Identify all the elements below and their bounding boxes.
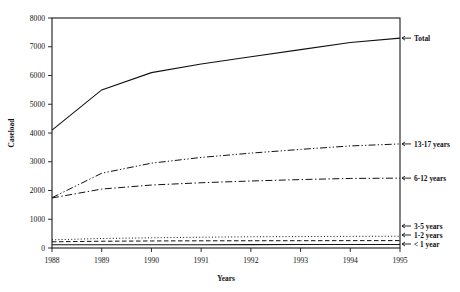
series-line-3-5-years bbox=[52, 236, 400, 240]
legend-label-total: Total bbox=[414, 34, 430, 43]
y-tick-label: 7000 bbox=[30, 42, 45, 51]
plot-frame bbox=[52, 18, 400, 248]
x-tick-label: 1995 bbox=[392, 256, 407, 265]
legend-label-13-17-years: 13-17 years bbox=[414, 140, 450, 149]
y-tick-label: 1000 bbox=[30, 215, 45, 224]
chart-legend: Total13-17 years6-12 years3-5 years1-2 y… bbox=[402, 34, 450, 249]
x-tick-label: 1993 bbox=[293, 256, 308, 265]
x-tick-label: 1992 bbox=[243, 256, 258, 265]
y-tick-label: 0 bbox=[41, 244, 45, 253]
y-tick-label: 3000 bbox=[30, 157, 45, 166]
legend-label-6-12-years: 6-12 years bbox=[414, 174, 446, 183]
chart-container: 010002000300040005000600070008000 198819… bbox=[0, 0, 460, 292]
y-axis-title: Caseload bbox=[7, 118, 16, 148]
y-tick-label: 6000 bbox=[30, 71, 45, 80]
x-axis-ticks bbox=[52, 248, 400, 252]
line-chart-plot: 010002000300040005000600070008000 198819… bbox=[0, 0, 460, 292]
legend-label-1-2-years: 1-2 years bbox=[414, 231, 443, 240]
series-line-1-2-years bbox=[52, 241, 400, 242]
series-line-13-17-years bbox=[52, 144, 400, 198]
x-tick-label: 1989 bbox=[94, 256, 109, 265]
series-line-6-12-years bbox=[52, 178, 400, 198]
y-axis-tick-labels: 010002000300040005000600070008000 bbox=[30, 14, 45, 253]
y-tick-label: 5000 bbox=[30, 100, 45, 109]
y-tick-label: 2000 bbox=[30, 186, 45, 195]
legend-label-3-5-years: 3-5 years bbox=[414, 222, 443, 231]
x-axis-title: Years bbox=[217, 274, 235, 283]
y-tick-label: 4000 bbox=[30, 129, 45, 138]
x-tick-label: 1990 bbox=[144, 256, 159, 265]
x-axis-tick-labels: 19881989199019911992199319941995 bbox=[44, 256, 407, 265]
y-axis-ticks bbox=[48, 18, 52, 248]
y-tick-label: 8000 bbox=[30, 14, 45, 23]
x-tick-label: 1991 bbox=[194, 256, 209, 265]
series-line-total bbox=[52, 38, 400, 130]
legend-label-1-year: < 1 year bbox=[414, 240, 440, 249]
x-tick-label: 1988 bbox=[44, 256, 59, 265]
data-series-group bbox=[52, 38, 400, 245]
x-tick-label: 1994 bbox=[343, 256, 358, 265]
